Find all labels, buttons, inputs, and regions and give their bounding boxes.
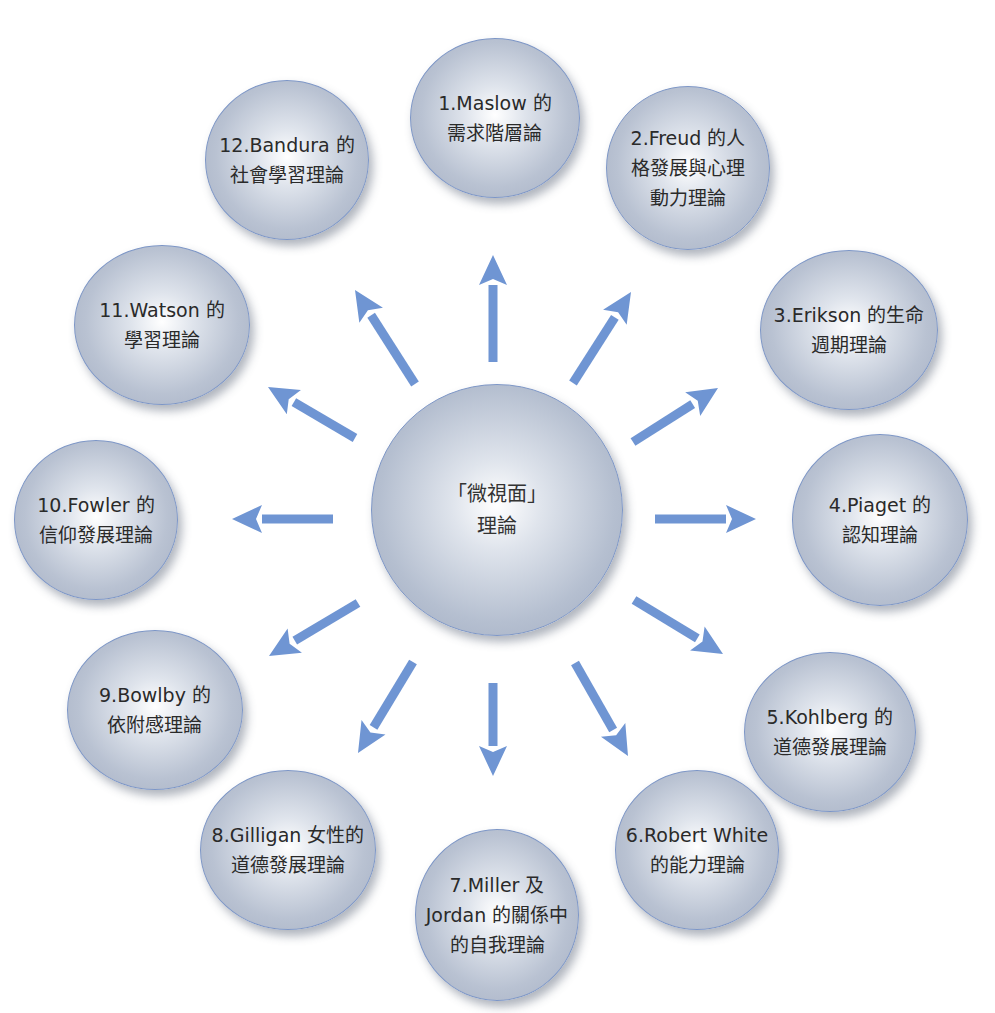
theory-node-3: 3.Erikson 的生命 週期理論 bbox=[760, 250, 938, 410]
arrow-icon bbox=[269, 599, 360, 656]
theory-node-5: 5.Kohlberg 的 道德發展理論 bbox=[744, 652, 916, 812]
theory-node-10: 10.Fowler 的 信仰發展理論 bbox=[14, 440, 178, 600]
theory-node-label: 12.Bandura 的 社會學習理論 bbox=[219, 130, 355, 190]
theory-node-label: 5.Kohlberg 的 道德發展理論 bbox=[767, 702, 894, 762]
arrow-icon bbox=[358, 660, 417, 753]
arrow-icon bbox=[632, 596, 723, 654]
center-node-label: 「微視面」 理論 bbox=[447, 478, 547, 542]
theory-node-label: 4.Piaget 的 認知理論 bbox=[829, 490, 931, 550]
theory-node-9: 9.Bowlby 的 依附感理論 bbox=[67, 630, 243, 790]
theory-node-2: 2.Freud 的人 格發展與心理 動力理論 bbox=[606, 86, 770, 250]
theory-node-11: 11.Watson 的 學習理論 bbox=[74, 245, 250, 405]
arrow-icon bbox=[631, 388, 718, 446]
theory-node-8: 8.Gilligan 女性的 道德發展理論 bbox=[200, 770, 376, 930]
theory-node-4: 4.Piaget 的 認知理論 bbox=[792, 434, 968, 606]
arrow-icon bbox=[479, 683, 507, 776]
theory-node-7: 7.Miller 及 Jordan 的關係中 的自我理論 bbox=[415, 829, 579, 1001]
arrow-icon bbox=[479, 255, 507, 362]
theory-node-label: 2.Freud 的人 格發展與心理 動力理論 bbox=[631, 123, 746, 213]
arrow-icon bbox=[232, 505, 333, 533]
theory-node-label: 6.Robert White 的能力理論 bbox=[626, 820, 768, 880]
theory-node-label: 7.Miller 及 Jordan 的關係中 的自我理論 bbox=[426, 870, 569, 960]
arrow-icon bbox=[571, 661, 628, 756]
theory-node-1: 1.Maslow 的 需求階層論 bbox=[410, 38, 580, 198]
theory-node-label: 9.Bowlby 的 依附感理論 bbox=[99, 680, 211, 740]
theory-node-label: 11.Watson 的 學習理論 bbox=[99, 295, 225, 355]
theory-node-12: 12.Bandura 的 社會學習理論 bbox=[205, 80, 369, 240]
center-node-micro-theory: 「微視面」 理論 bbox=[371, 384, 623, 636]
theory-node-label: 1.Maslow 的 需求階層論 bbox=[438, 88, 552, 148]
arrow-icon bbox=[569, 292, 631, 385]
theory-node-label: 10.Fowler 的 信仰發展理論 bbox=[37, 490, 154, 550]
theory-node-label: 8.Gilligan 女性的 道德發展理論 bbox=[212, 820, 365, 880]
arrow-icon bbox=[268, 387, 357, 442]
theory-node-label: 3.Erikson 的生命 週期理論 bbox=[774, 300, 925, 360]
arrow-icon bbox=[655, 505, 756, 533]
theory-node-6: 6.Robert White 的能力理論 bbox=[615, 770, 779, 930]
arrow-icon bbox=[355, 290, 419, 386]
